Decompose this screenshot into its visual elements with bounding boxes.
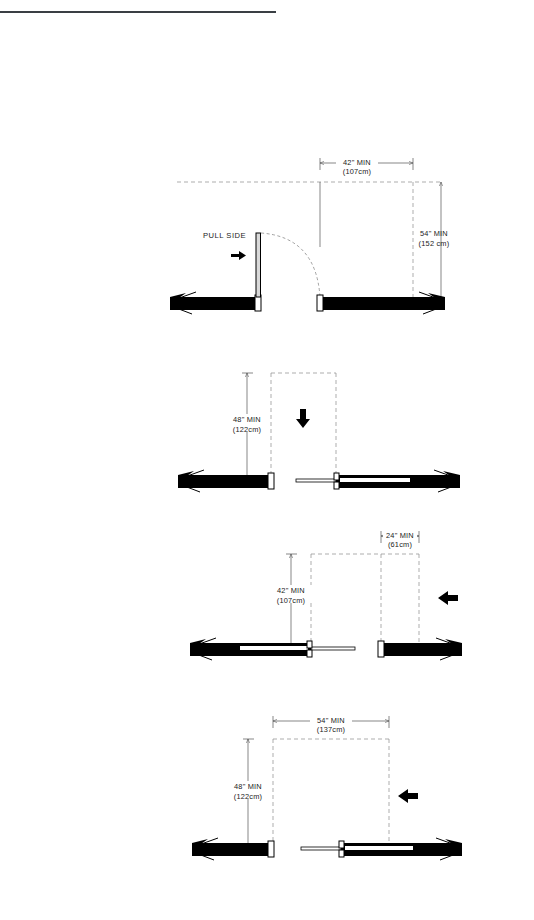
fig2-door-panel-flat [296, 479, 336, 482]
fig4-left-wall [192, 838, 268, 860]
fig4-right-wall [341, 838, 462, 860]
fig3-horizontal-dimension: 24" MIN (61cm) [381, 530, 419, 549]
arrow-left-icon [398, 789, 418, 803]
fig1-pull-side-label: PULL SIDE [203, 231, 246, 240]
fig1-door-panel [256, 233, 261, 297]
fig4-horizontal-dimension: 54" MIN (137cm) [273, 715, 389, 734]
fig3-right-jamb [378, 641, 384, 657]
fig4-clearance-zone [273, 739, 389, 845]
fig1-clearance-zone [177, 182, 440, 302]
fig4-hinge-lower [339, 850, 344, 857]
figure-4-latch-side-approach: 54" MIN (137cm) 48" MIN (122cm) [192, 715, 462, 860]
fig4-left-jamb [268, 841, 274, 857]
fig1-left-wall [170, 292, 255, 314]
fig2-hinge-upper [334, 473, 339, 480]
arrow-down-icon [296, 409, 310, 428]
fig1-dim-h-imperial: 42" MIN [343, 158, 371, 167]
arrow-right-icon [231, 251, 246, 260]
fig1-right-jamb [317, 295, 323, 311]
fig1-pull-side-label-group: PULL SIDE [203, 231, 246, 260]
fig4-door-panel-flat [301, 847, 341, 850]
figure-3-hinge-side-approach: 24" MIN (61cm) 42" MIN (107cm) [190, 530, 462, 660]
fig4-dim-v-imperial: 48" MIN [234, 782, 262, 791]
fig1-horizontal-dimension: 42" MIN (107cm) [320, 157, 413, 176]
fig2-right-wall [336, 470, 460, 492]
fig2-dim-v-metric: (122cm) [233, 425, 262, 434]
fig4-vertical-dimension: 48" MIN (122cm) [225, 739, 271, 847]
fig1-dim-v-metric: (152 cm) [419, 239, 450, 248]
fig1-right-wall [322, 292, 445, 314]
fig1-vertical-dimension: 54" MIN (152 cm) [419, 182, 450, 302]
fig2-hinge-lower [334, 482, 339, 489]
fig1-door-swing-arc [261, 233, 320, 297]
fig3-left-wall [190, 638, 311, 660]
fig3-right-wall [383, 638, 462, 660]
fig3-door-panel-flat [311, 647, 355, 650]
fig2-left-wall [178, 470, 268, 492]
fig4-dim-h-metric: (137cm) [317, 725, 346, 734]
fig1-dim-h-metric: (107cm) [343, 167, 372, 176]
fig3-clearance-zone [311, 554, 419, 645]
fig3-dim-v-metric: (107cm) [277, 596, 306, 605]
figure-1-front-approach-pull-side: 42" MIN (107cm) 54" MIN (152 cm) PULL SI… [170, 157, 449, 314]
fig4-dim-h-imperial: 54" MIN [317, 716, 345, 725]
fig4-hinge-upper [339, 841, 344, 848]
fig3-dim-v-imperial: 42" MIN [277, 586, 305, 595]
fig3-vertical-dimension: 42" MIN (107cm) [268, 554, 314, 647]
fig3-dim-h-imperial: 24" MIN [386, 531, 414, 540]
arrow-left-icon [438, 591, 458, 605]
fig3-dim-h-metric: (61cm) [388, 540, 412, 549]
fig3-hinge-upper [307, 641, 312, 648]
fig2-vertical-dimension: 48" MIN (122cm) [224, 373, 270, 479]
fig2-left-jamb [268, 473, 274, 489]
fig3-hinge-lower [307, 650, 312, 657]
fig1-dim-v-imperial: 54" MIN [420, 229, 448, 238]
fig4-dim-v-metric: (122cm) [234, 792, 263, 801]
figure-2-front-approach-push-side: 48" MIN (122cm) [178, 373, 460, 492]
fig2-dim-v-imperial: 48" MIN [233, 415, 261, 424]
door-clearance-drawing: 42" MIN (107cm) 54" MIN (152 cm) PULL SI… [0, 0, 534, 920]
diagram-page: 42" MIN (107cm) 54" MIN (152 cm) PULL SI… [0, 0, 534, 920]
